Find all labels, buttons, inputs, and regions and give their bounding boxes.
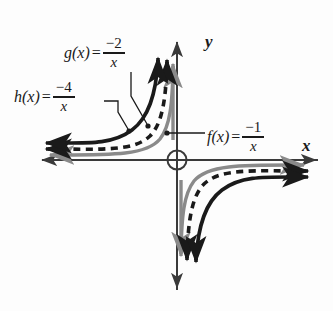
function-label-g-fraction: −2 x	[103, 36, 125, 70]
function-label-h-name: h(x)	[14, 89, 40, 105]
curve-h-branch-lower-right	[196, 177, 308, 260]
function-label-g-name: g(x)	[64, 45, 90, 61]
function-label-f: f(x) = −1 x	[207, 120, 264, 154]
y-axis-label: y	[205, 33, 213, 50]
function-label-h: h(x) = −4 x	[14, 80, 75, 114]
function-label-f-fraction: −1 x	[242, 120, 264, 154]
function-label-h-equals: =	[42, 89, 51, 105]
graph-canvas	[0, 0, 333, 311]
function-label-h-fraction: −4 x	[53, 80, 75, 114]
leader-dot-h	[126, 128, 131, 133]
function-label-f-denominator: x	[247, 138, 260, 154]
leader-line-h	[104, 101, 128, 129]
function-label-h-numerator: −4	[53, 80, 75, 96]
function-label-g: g(x) = −2 x	[64, 36, 125, 70]
leader-dot-f	[164, 130, 169, 135]
function-label-f-name: f(x)	[207, 129, 229, 145]
function-label-g-equals: =	[92, 45, 101, 61]
function-label-g-denominator: x	[107, 54, 120, 70]
leader-dot-g	[145, 123, 150, 128]
function-label-f-numerator: −1	[242, 120, 264, 136]
function-label-f-equals: =	[231, 129, 240, 145]
function-label-h-denominator: x	[57, 98, 70, 114]
x-axis-label: x	[302, 137, 311, 154]
function-label-g-numerator: −2	[103, 36, 125, 52]
function-graph-figure: g(x) = −2 x h(x) = −4 x f(x) = −1 x y x	[0, 0, 333, 311]
